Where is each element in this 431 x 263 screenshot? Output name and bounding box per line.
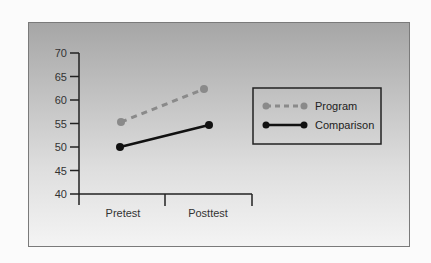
comparison-posttest-point bbox=[205, 121, 213, 129]
y-tick-label: 40 bbox=[55, 188, 67, 200]
y-tick-label: 70 bbox=[55, 47, 67, 59]
y-tick-label: 55 bbox=[55, 118, 67, 130]
program-posttest-point bbox=[200, 85, 208, 93]
line-chart: 70 65 60 55 50 45 40 Pretest Posttest Pr… bbox=[0, 0, 431, 263]
legend-program-label: Program bbox=[315, 100, 357, 112]
legend-comparison-marker-icon bbox=[301, 122, 308, 129]
program-pretest-point bbox=[117, 118, 125, 126]
x-category-pretest: Pretest bbox=[106, 207, 141, 219]
legend-comparison-marker-icon bbox=[263, 122, 270, 129]
y-tick-label: 60 bbox=[55, 94, 67, 106]
legend-program-marker-icon bbox=[301, 103, 308, 110]
legend-box bbox=[253, 88, 381, 144]
x-category-posttest: Posttest bbox=[188, 207, 228, 219]
y-tick-label: 45 bbox=[55, 165, 67, 177]
y-tick-label: 65 bbox=[55, 71, 67, 83]
y-tick-labels: 70 65 60 55 50 45 40 bbox=[55, 47, 67, 200]
series-program bbox=[117, 85, 208, 126]
series-comparison bbox=[116, 121, 213, 151]
y-ticks bbox=[70, 53, 79, 194]
comparison-pretest-point bbox=[116, 143, 124, 151]
legend: Program Comparison bbox=[253, 88, 381, 144]
legend-comparison-label: Comparison bbox=[315, 119, 374, 131]
y-tick-label: 50 bbox=[55, 141, 67, 153]
legend-program-marker-icon bbox=[263, 103, 270, 110]
